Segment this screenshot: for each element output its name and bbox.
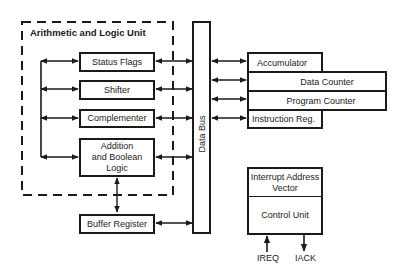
accumulator-label: Accumulator [257, 58, 307, 68]
accumulator-register: Accumulator [247, 52, 323, 73]
interrupt-vector-section: Interrupt Address Vector [249, 169, 321, 197]
complementer-label: Complementer [87, 113, 146, 124]
status-flags-label: Status Flags [92, 57, 142, 68]
buffer-register-label: Buffer Register [87, 219, 147, 230]
interrupt-vector-line-1: Interrupt Address [251, 172, 320, 183]
data-bus-label: Data Bus [197, 110, 207, 158]
instruction-register: Instruction Reg. [247, 109, 323, 129]
buffer-register-block: Buffer Register [79, 214, 155, 234]
alu-title: Arithmetic and Logic Unit [30, 27, 146, 38]
program-counter-label: Program Counter [286, 96, 355, 106]
addition-label-line-1: Addition [101, 141, 134, 152]
program-counter-register: Program Counter [247, 90, 387, 111]
control-unit-section: Control Unit [249, 197, 321, 234]
interrupt-vector-line-2: Vector [272, 183, 298, 194]
instruction-reg-label: Instruction Reg. [252, 114, 315, 124]
control-unit-block: Interrupt Address Vector Control Unit [247, 167, 323, 235]
ireq-label: IREQ [257, 253, 279, 264]
shifter-label: Shifter [104, 85, 130, 96]
control-unit-label: Control Unit [261, 210, 309, 221]
data-counter-register: Data Counter [247, 71, 387, 92]
addition-label-line-3: Logic [106, 163, 128, 174]
status-flags-block: Status Flags [79, 52, 155, 72]
addition-label-line-2: and Boolean [92, 152, 143, 163]
iack-label: IACK [295, 253, 316, 264]
addition-boolean-logic-block: Addition and Boolean Logic [79, 138, 155, 177]
shifter-block: Shifter [79, 80, 155, 100]
complementer-block: Complementer [79, 109, 155, 128]
data-counter-label: Data Counter [300, 77, 354, 87]
